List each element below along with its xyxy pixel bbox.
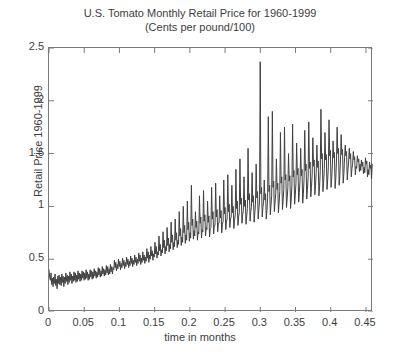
chart-title-block: U.S. Tomato Monthly Retail Price for 196… (0, 6, 400, 34)
x-axis-label: time in months (0, 331, 400, 343)
y-tick-label: 0 (4, 304, 44, 316)
x-tick-label: 0.45 (343, 316, 387, 328)
y-tick-label: 1 (4, 198, 44, 210)
data-line-series (49, 48, 373, 312)
chart-subtitle: (Cents per pound/100) (0, 20, 400, 34)
y-tick-label: 2 (4, 93, 44, 105)
y-tick-label: 2.5 (4, 40, 44, 52)
y-tick-label: 1.5 (4, 146, 44, 158)
chart-title: U.S. Tomato Monthly Retail Price for 196… (0, 6, 400, 20)
y-axis-label: Retail Price 1960-1999 (32, 41, 44, 241)
y-tick-label: 0.5 (4, 251, 44, 263)
plot-area (48, 47, 372, 311)
chart-figure: U.S. Tomato Monthly Retail Price for 196… (0, 0, 400, 354)
series-polyline (49, 62, 372, 289)
